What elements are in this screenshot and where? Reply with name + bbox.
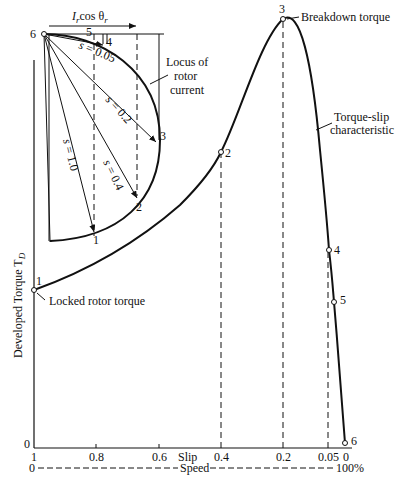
locus-label-line3: current (170, 83, 205, 97)
y-zero-label: 0 (24, 437, 30, 451)
curve-point-4-label: 4 (334, 243, 340, 257)
curve-point-5-label: 5 (340, 293, 346, 307)
slip-label-02: s = 0.2 (103, 93, 135, 126)
locus-label-line1: Locus of (166, 55, 208, 69)
curve-point-6 (343, 441, 348, 446)
y-axis-label: Developed Torque TD (11, 252, 27, 358)
curve-point-3-label: 3 (279, 2, 285, 16)
speed-end-label: 100% (336, 461, 364, 475)
torque-slip-curve: 1 2 3 4 5 6 Breakdown torque Torque-slip… (32, 2, 394, 448)
curve-point-2 (219, 150, 224, 155)
origin-point (42, 32, 47, 37)
torque-slip-label-line1: Torque-slip (334, 110, 389, 124)
axes: 0 Developed Torque TD 1 0.8 0.6 Slip 0.4… (11, 60, 364, 475)
speed-axis-label: Speed (180, 461, 209, 475)
torque-slip-label-line2: characteristic (330, 123, 394, 137)
locked-rotor-torque-label: Locked rotor torque (49, 294, 145, 308)
locked-rotor-leader (37, 293, 45, 300)
x-tick-08: 0.8 (89, 450, 104, 464)
locus-point-1-label: 1 (93, 233, 99, 247)
curve-point-6-label: 6 (351, 434, 357, 448)
curve-point-2-label: 2 (225, 146, 231, 160)
locus-point-2-label: 2 (136, 200, 142, 214)
torque-slip-diagram: Ircos θr 6 5 4 3 2 1 ss = 0.05 = 0. (0, 0, 404, 487)
curve-point-4 (327, 248, 332, 253)
slip-label-04: s = 0.4 (100, 157, 127, 192)
x-tick-02: 0.2 (276, 450, 291, 464)
breakdown-torque-label: Breakdown torque (301, 10, 390, 24)
locus-point-5-label: 5 (86, 25, 92, 39)
curve-point-1 (32, 288, 37, 293)
locus-label-line2: rotor (174, 69, 197, 83)
ir-cos-label: Ircos θr (71, 9, 108, 25)
origin-label: 6 (30, 27, 36, 41)
curve-point-3 (281, 17, 286, 22)
slip-label-10: s = 1.0 (60, 137, 81, 172)
curve-point-5 (332, 300, 337, 305)
speed-start-label: 0 (29, 461, 35, 475)
arrow-s-10 (44, 34, 94, 232)
x-tick-06: 0.6 (152, 450, 167, 464)
locus-point-3-label: 3 (160, 129, 166, 143)
curve-point-1-label: 1 (36, 274, 42, 288)
x-tick-04: 0.4 (214, 450, 229, 464)
rotor-current-locus: Ircos θr 6 5 4 3 2 1 ss = 0.05 = 0. (30, 9, 208, 247)
